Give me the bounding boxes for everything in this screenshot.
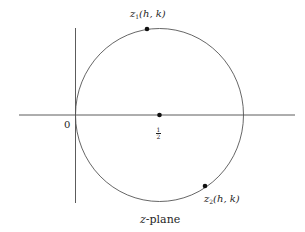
point-z2 bbox=[203, 184, 208, 189]
center-label-denominator: 2 bbox=[157, 134, 161, 140]
center-label: 1 2 bbox=[156, 119, 161, 140]
center-point bbox=[157, 113, 162, 118]
label-z1-args: (h, k) bbox=[139, 8, 166, 19]
label-z2: z2(h, k) bbox=[204, 194, 240, 205]
label-z2-args: (h, k) bbox=[213, 193, 240, 204]
point-z1 bbox=[145, 27, 150, 32]
plane-caption: z-plane bbox=[140, 214, 180, 225]
plane-caption-rest: -plane bbox=[146, 213, 180, 226]
diagram-canvas bbox=[0, 0, 305, 232]
origin-label: 0 bbox=[64, 120, 70, 130]
label-z1: z1(h, k) bbox=[130, 9, 166, 20]
